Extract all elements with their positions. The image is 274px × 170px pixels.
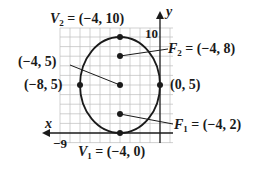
point-v2 xyxy=(117,34,123,40)
label-v1: V1 = (−4, 0) xyxy=(78,145,145,161)
point-f2 xyxy=(117,53,123,59)
leader-line-f2 xyxy=(120,49,168,56)
label-v2: V2 = (−4, 10) xyxy=(50,12,124,28)
leader-line-f1 xyxy=(120,114,173,124)
point-left-covertex xyxy=(77,82,83,88)
label-right-covertex: (0, 5) xyxy=(170,78,200,92)
y-axis-label: y xyxy=(166,5,172,19)
x-tick-minus-9: −9 xyxy=(53,137,67,150)
y-tick-10: 10 xyxy=(145,27,158,40)
ellipse-figure: y x 10 −9 V2 = (−4, 10) F2 = (−4, 8) (−4… xyxy=(0,0,274,170)
label-center: (−4, 5) xyxy=(18,55,56,69)
label-left-covertex: (−8, 5) xyxy=(24,78,62,92)
label-f2: F2 = (−4, 8) xyxy=(168,42,235,58)
leader-line-center xyxy=(70,65,120,85)
point-center xyxy=(117,82,123,88)
x-axis-label: x xyxy=(45,117,52,131)
label-f1: F1 = (−4, 2) xyxy=(174,118,241,134)
point-right-covertex xyxy=(157,82,163,88)
point-v1 xyxy=(117,130,123,136)
grid xyxy=(60,28,173,143)
point-f1 xyxy=(117,111,123,117)
